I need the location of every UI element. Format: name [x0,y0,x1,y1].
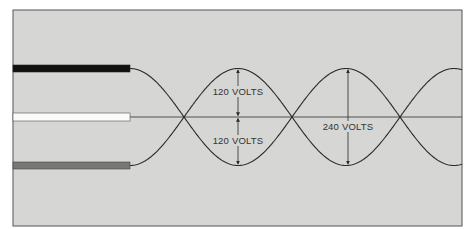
hot-wire-gray [13,162,130,169]
split-phase-voltage-diagram: 120 VOLTS 120 VOLTS 240 VOLTS [0,0,465,229]
label-upper-120-volts: 120 VOLTS [213,86,264,97]
label-full-240-volts: 240 VOLTS [323,121,374,132]
neutral-wire-white [13,113,130,121]
label-lower-120-volts: 120 VOLTS [213,135,264,146]
hot-wire-black [13,65,130,72]
